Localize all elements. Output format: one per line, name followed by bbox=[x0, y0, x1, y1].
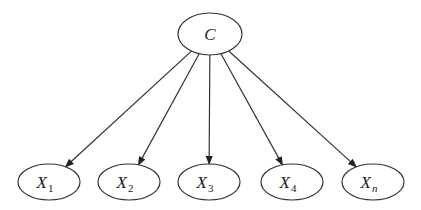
node-subscript: 4 bbox=[291, 182, 297, 194]
node-x4: X4 bbox=[261, 164, 323, 200]
node-subscript: 1 bbox=[48, 182, 54, 194]
node-x1: X1 bbox=[18, 164, 80, 200]
edge-c-to-x3 bbox=[209, 55, 210, 164]
node-c: C bbox=[178, 13, 242, 55]
node-subscript: 3 bbox=[208, 182, 214, 194]
node-x2: X2 bbox=[98, 164, 160, 200]
node-label: C bbox=[204, 25, 216, 44]
edge-c-to-x4 bbox=[221, 54, 283, 165]
edge-c-to-x2 bbox=[138, 54, 199, 165]
edges bbox=[66, 51, 357, 167]
edge-c-to-xn bbox=[229, 51, 357, 167]
naive-bayes-diagram: CX1X2X3X4Xn bbox=[0, 0, 421, 210]
node-subscript: n bbox=[372, 182, 378, 194]
node-x3: X3 bbox=[178, 164, 240, 200]
nodes: CX1X2X3X4Xn bbox=[18, 13, 404, 200]
edge-c-to-x1 bbox=[66, 51, 192, 167]
node-subscript: 2 bbox=[128, 182, 134, 194]
node-xn: Xn bbox=[342, 164, 404, 200]
